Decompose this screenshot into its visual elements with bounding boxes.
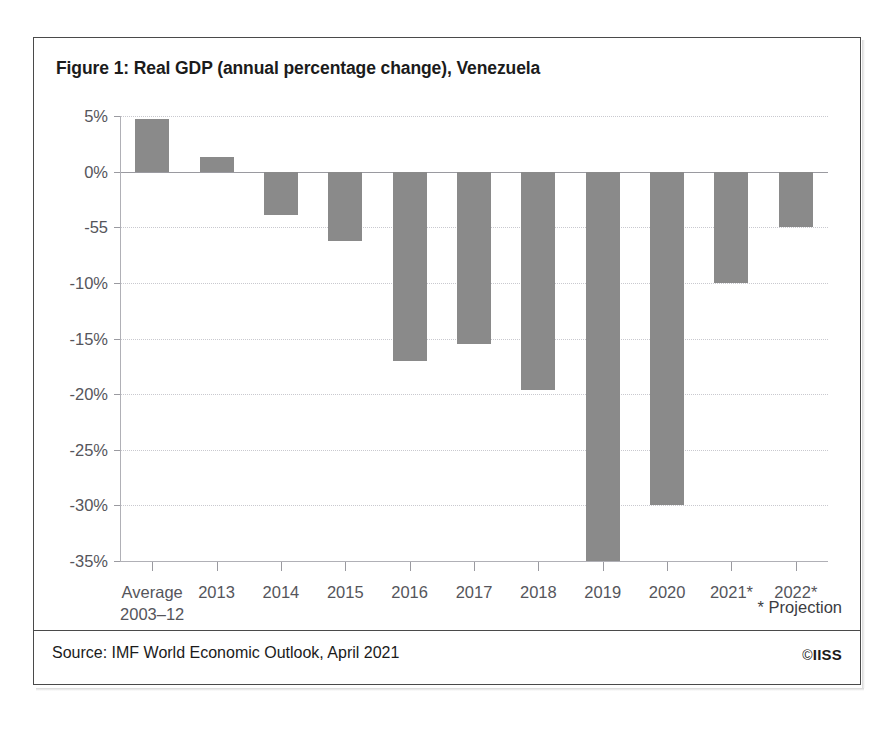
footer-divider — [34, 630, 860, 631]
figure-frame: Figure 1: Real GDP (annual percentage ch… — [33, 37, 861, 685]
x-axis-tick — [474, 562, 475, 571]
y-axis-tick-label: -55 — [84, 218, 108, 237]
x-axis-tick-label: 2019 — [584, 582, 621, 604]
figure-page: Figure 1: Real GDP (annual percentage ch… — [0, 0, 894, 738]
x-axis-tick — [538, 562, 539, 571]
bar — [521, 172, 555, 390]
y-axis-tick-label: -30% — [69, 496, 108, 515]
bar — [200, 157, 234, 171]
y-axis-tick-label: 0% — [84, 162, 108, 181]
projection-footnote: * Projection — [758, 598, 842, 617]
x-axis-tick-label: 2021* — [710, 582, 753, 604]
y-axis-tick — [114, 172, 120, 173]
y-axis-tick-label: 5% — [84, 107, 108, 126]
y-axis-tick — [114, 394, 120, 395]
bar — [779, 172, 813, 228]
bar — [586, 172, 620, 561]
y-axis-tick-label: -15% — [69, 329, 108, 348]
chart-plot-area: 5%0%-55-10%-15%-20%-25%-30%-35% Average … — [120, 116, 828, 561]
y-axis-tick-label: -25% — [69, 440, 108, 459]
source-line: Source: IMF World Economic Outlook, Apri… — [52, 644, 399, 662]
x-axis-tick — [410, 562, 411, 571]
gridline-5 — [120, 116, 828, 118]
figure-title: Figure 1: Real GDP (annual percentage ch… — [56, 58, 540, 79]
x-axis-tick-label: 2016 — [391, 582, 428, 604]
bar — [264, 172, 298, 215]
x-axis-tick — [603, 562, 604, 571]
y-axis-tick — [114, 283, 120, 284]
x-axis-tick — [281, 562, 282, 571]
x-axis-tick — [796, 562, 797, 571]
x-axis-tick-label: 2017 — [456, 582, 493, 604]
y-axis-tick — [114, 116, 120, 117]
copyright-owner-label: IISS — [813, 646, 842, 663]
bar — [714, 172, 748, 283]
x-axis-tick — [345, 562, 346, 571]
bar — [393, 172, 427, 361]
x-axis-tick — [217, 562, 218, 571]
gridline-neg25 — [120, 450, 828, 452]
x-axis-tick-label: 2020 — [649, 582, 686, 604]
x-axis-tick-label: 2015 — [327, 582, 364, 604]
x-axis-tick-label: Average 2003–12 — [120, 582, 184, 626]
y-axis-tick — [114, 227, 120, 228]
bar — [328, 172, 362, 241]
y-axis-tick — [114, 339, 120, 340]
y-axis-spine — [120, 116, 121, 561]
x-axis-tick — [152, 562, 153, 571]
figure-shadow-bottom — [36, 688, 864, 691]
y-axis-tick — [114, 450, 120, 451]
bar — [650, 172, 684, 506]
gridline-neg20 — [120, 394, 828, 396]
y-axis-tick-label: -35% — [69, 552, 108, 571]
gridline-neg30 — [120, 505, 828, 507]
x-axis-tick-label: 2014 — [263, 582, 300, 604]
copyright-icon: © — [802, 647, 813, 663]
y-axis-tick — [114, 505, 120, 506]
x-axis-tick — [731, 562, 732, 571]
y-axis-tick-label: -10% — [69, 273, 108, 292]
x-axis-tick-label: 2018 — [520, 582, 557, 604]
iiss-copyright-mark: ©IISS — [802, 646, 842, 663]
y-axis-tick-label: -20% — [69, 385, 108, 404]
bar — [457, 172, 491, 344]
x-axis-tick-label: 2013 — [198, 582, 235, 604]
x-axis-tick — [667, 562, 668, 571]
bar — [135, 119, 169, 171]
figure-shadow-right — [862, 40, 865, 688]
